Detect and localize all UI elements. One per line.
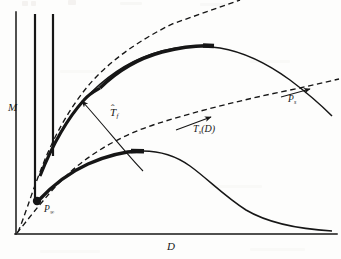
curve-t-s-of-d-label: Ts(D) bbox=[193, 124, 215, 135]
figure-container: M D P∞ Ps ˆTf Ts(D) bbox=[0, 0, 341, 259]
p-s-subscript: s bbox=[294, 99, 296, 105]
x-axis-label: D bbox=[167, 241, 175, 252]
t-s-base: T bbox=[193, 123, 199, 134]
y-axis-label: M bbox=[8, 102, 17, 113]
upper-curve-bold-segment bbox=[100, 46, 213, 88]
point-p-s-label: Ps bbox=[288, 95, 296, 106]
t-hat-wrap: ˆT bbox=[110, 107, 116, 118]
p-s-base: P bbox=[288, 94, 294, 104]
axis-lines bbox=[15, 12, 337, 234]
dashed-curves bbox=[17, 0, 339, 233]
p-infinity-subscript: ∞ bbox=[50, 209, 54, 215]
p-infinity-base: P bbox=[44, 204, 50, 214]
point-p-infinity-label: P∞ bbox=[44, 205, 54, 216]
lower-curve-bold-segment bbox=[38, 151, 140, 201]
t-s-argument: (D) bbox=[201, 123, 215, 134]
figure-plot bbox=[0, 0, 341, 259]
upper-curve-thin bbox=[40, 46, 332, 176]
vertical-asymptotes bbox=[35, 14, 53, 200]
upper-curve-endcap bbox=[203, 46, 214, 47]
t-hat-subscript: f bbox=[116, 112, 118, 119]
circumflex-accent-icon: ˆ bbox=[111, 104, 114, 114]
dashed-upper-tangent bbox=[18, 0, 240, 232]
upper-curve-group bbox=[40, 46, 332, 177]
curve-t-hat-f-label: ˆTf bbox=[110, 107, 118, 120]
p-infinity-dot bbox=[33, 197, 41, 205]
